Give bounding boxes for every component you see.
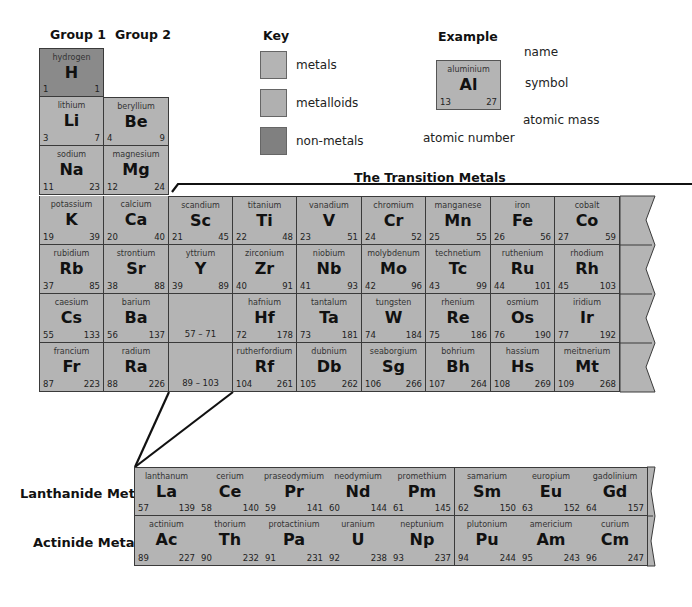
atomic-number: 1 — [43, 84, 48, 94]
atomic-mass: 178 — [277, 330, 293, 340]
element-name: molybdenum — [362, 249, 425, 258]
element-name: magnesium — [104, 150, 168, 159]
atomic-mass: 140 — [243, 503, 259, 513]
element-cell-vanadium: vanadiumV2351 — [297, 196, 362, 245]
atomic-mass: 244 — [500, 553, 516, 563]
element-symbol: Zr — [233, 259, 296, 278]
element-cell-hafnium: hafniumHf72178 — [233, 294, 297, 343]
element-cell-niobium: niobiumNb4193 — [297, 245, 362, 294]
element-symbol: Db — [297, 357, 361, 376]
element-name: niobium — [297, 249, 361, 258]
element-name: vanadium — [297, 201, 361, 210]
atomic-number: 22 — [236, 232, 247, 242]
element-name: sodium — [40, 150, 103, 159]
atomic-number: 56 — [107, 330, 118, 340]
atomic-mass: 237 — [435, 553, 451, 563]
element-cell-americium: americiumAm95243 — [519, 516, 584, 566]
atomic-mass: 226 — [149, 379, 165, 389]
atomic-mass: 88 — [154, 281, 165, 291]
element-symbol: Ca — [104, 210, 168, 229]
element-range: 89 – 103 — [169, 378, 232, 388]
atomic-number: 25 — [429, 232, 440, 242]
element-symbol: Ta — [297, 308, 361, 327]
element-name: manganese — [426, 201, 490, 210]
element-symbol: Ru — [491, 259, 554, 278]
example-atomic-number: 13 — [440, 97, 451, 107]
atomic-mass: 101 — [535, 281, 551, 291]
element-name: uranium — [326, 520, 390, 529]
element-symbol: Rf — [233, 357, 296, 376]
f-block-connector-right — [135, 392, 233, 467]
element-symbol: Os — [491, 308, 554, 327]
group-2-heading: Group 2 — [115, 27, 171, 42]
atomic-number: 4 — [107, 133, 112, 143]
element-symbol: Mg — [104, 160, 168, 179]
transition-bracket-line — [172, 184, 692, 192]
atomic-number: 62 — [458, 503, 469, 513]
element-cell-promethium: promethiumPm61145 — [390, 467, 455, 516]
atomic-number: 87 — [43, 379, 54, 389]
element-cell-neodymium: neodymiumNd60144 — [326, 467, 391, 516]
atomic-number: 58 — [201, 503, 212, 513]
element-cell-zirconium: zirconiumZr4091 — [233, 245, 297, 294]
element-name: neptunium — [390, 520, 454, 529]
element-name: hydrogen — [40, 53, 103, 62]
element-name: lanthanum — [135, 472, 198, 481]
element-cell-iridium: iridiumIr77192 — [555, 294, 620, 343]
element-name: samarium — [455, 472, 519, 481]
element-cell-seaborgium: seaborgiumSg106266 — [362, 343, 426, 392]
element-name: hassium — [491, 347, 554, 356]
element-symbol: Be — [104, 112, 168, 131]
atomic-number: 39 — [172, 281, 183, 291]
element-symbol: K — [40, 210, 103, 229]
element-name: potassium — [40, 200, 103, 209]
element-name: tungsten — [362, 298, 425, 307]
element-symbol: Pa — [262, 530, 326, 549]
element-cell-lanthanum: lanthanumLa57139 — [134, 467, 199, 516]
atomic-mass: 93 — [347, 281, 358, 291]
atomic-mass: 227 — [179, 553, 195, 563]
element-name: bohrium — [426, 347, 490, 356]
element-name: chromium — [362, 201, 425, 210]
element-cell-calcium: calciumCa2040 — [104, 196, 169, 245]
atomic-number: 76 — [494, 330, 505, 340]
atomic-mass: 56 — [540, 232, 551, 242]
atomic-number: 106 — [365, 379, 381, 389]
element-symbol: Mt — [555, 357, 619, 376]
atomic-mass: 85 — [89, 281, 100, 291]
atomic-mass: 51 — [347, 232, 358, 242]
atomic-mass: 137 — [149, 330, 165, 340]
example-atomic-mass: 27 — [486, 97, 497, 107]
element-cell-europium: europiumEu63152 — [519, 467, 584, 516]
element-cell-barium: bariumBa56137 — [104, 294, 169, 343]
element-cell-rhodium: rhodiumRh45103 — [555, 245, 620, 294]
element-cell-plutonium: plutoniumPu94244 — [455, 516, 520, 566]
element-cell-iron: ironFe2656 — [491, 196, 555, 245]
atomic-mass: 262 — [342, 379, 358, 389]
element-name: europium — [519, 472, 583, 481]
element-symbol: Ac — [135, 530, 198, 549]
element-cell-lithium: lithiumLi37 — [39, 97, 104, 146]
element-name: actinium — [135, 520, 198, 529]
element-cell-protactinium: protactiniumPa91231 — [262, 516, 327, 566]
element-name: rubidium — [40, 249, 103, 258]
atomic-mass: 150 — [500, 503, 516, 513]
actinide-metals-heading: Actinide Metals — [33, 535, 147, 550]
element-symbol: Mo — [362, 259, 425, 278]
element-cell-praseodymium: praseodymiumPr59141 — [262, 467, 327, 516]
element-cell-beryllium: berylliumBe49 — [104, 97, 169, 146]
element-symbol: Sr — [104, 259, 168, 278]
element-symbol: Th — [198, 530, 262, 549]
atomic-mass: 40 — [154, 232, 165, 242]
atomic-mass: 238 — [371, 553, 387, 563]
element-name: iron — [491, 201, 554, 210]
element-cell-cerium: ceriumCe58140 — [198, 467, 263, 516]
element-cell-caesium: caesiumCs55133 — [39, 294, 104, 343]
element-symbol: Li — [40, 111, 103, 130]
atomic-mass: 55 — [476, 232, 487, 242]
atomic-number: 90 — [201, 553, 212, 563]
element-symbol: Co — [555, 211, 619, 230]
atomic-mass: 1 — [95, 84, 100, 94]
element-symbol: Gd — [583, 482, 647, 501]
element-cell-rubidium: rubidiumRb3785 — [39, 245, 104, 294]
